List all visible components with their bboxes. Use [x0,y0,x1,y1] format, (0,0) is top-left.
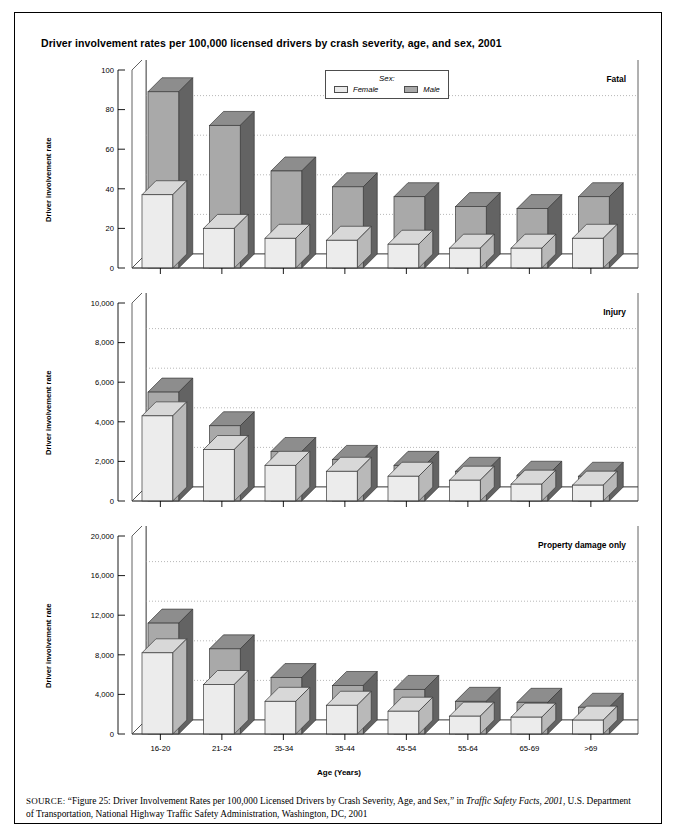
bar-female-25-34 [265,687,310,734]
legend-label-female: Female [353,85,378,94]
x-tick-label: 35-44 [335,744,356,753]
source-note: SOURCE: “Figure 25: Driver Involvement R… [26,795,636,820]
page-title: Driver involvement rates per 100,000 lic… [41,37,641,49]
y-tick-label: 2,000 [95,457,114,466]
y-axis-title: Driver involvement rate [44,604,53,688]
legend: Sex: Female Male [325,70,449,99]
x-tick-label: 65-69 [519,744,539,753]
chart-panel-3: 04,0008,00012,00016,00020,00016-2021-242… [0,526,678,758]
bar-female-21-24 [203,214,248,268]
y-tick-label: 0 [110,264,114,273]
y-tick-label: 100 [101,66,114,75]
source-prefix: SOURCE: [26,796,65,806]
x-tick-label: >69 [584,744,597,753]
legend-item-female: Female [334,85,378,94]
bar-female-16-20 [142,639,187,734]
y-tick-label: 20,000 [91,532,114,541]
y-tick-label: 80 [106,105,114,114]
y-tick-label: 0 [110,730,114,739]
x-tick-label: 21-24 [212,744,233,753]
y-tick-label: 6,000 [95,378,114,387]
y-tick-label: 16,000 [91,571,114,580]
source-italic: Traffic Safety Facts, 2001 [466,796,563,806]
bar-female-25-34 [265,451,310,501]
y-tick-label: 10,000 [91,299,114,308]
legend-swatch-male-icon [404,86,418,93]
bar-female-16-20 [142,181,187,268]
panel-label-2: Injury [603,307,626,317]
panel-label-1: Fatal [606,74,626,84]
x-tick-label: 55-64 [458,744,479,753]
x-tick-label: 25-34 [273,744,294,753]
bar-female-16-20 [142,402,187,501]
x-tick-label: 16-20 [150,744,171,753]
y-tick-label: 12,000 [91,611,114,620]
legend-title: Sex: [334,74,440,83]
y-tick-label: 4,000 [95,690,114,699]
panel-label-3: Property damage only [538,540,626,550]
legend-item-male: Male [404,85,439,94]
bar-female-21-24 [203,436,248,501]
legend-label-male: Male [423,85,439,94]
y-tick-label: 8,000 [95,338,114,347]
y-axis-title: Driver involvement rate [44,371,53,455]
y-tick-label: 20 [106,224,114,233]
y-tick-label: 60 [106,145,114,154]
source-text-1: “Figure 25: Driver Involvement Rates per… [65,796,466,806]
legend-swatch-female-icon [334,86,348,93]
y-tick-label: 8,000 [95,651,114,660]
x-axis-title: Age (Years) [0,768,678,777]
y-axis-title: Driver involvement rate [44,138,53,222]
x-tick-label: 45-54 [396,744,417,753]
y-tick-label: 0 [110,497,114,506]
y-tick-label: 4,000 [95,418,114,427]
y-tick-label: 40 [106,185,114,194]
bar-female-21-24 [203,671,248,735]
chart-panel-2: 02,0004,0006,0008,00010,000InjuryDriver … [0,293,678,525]
